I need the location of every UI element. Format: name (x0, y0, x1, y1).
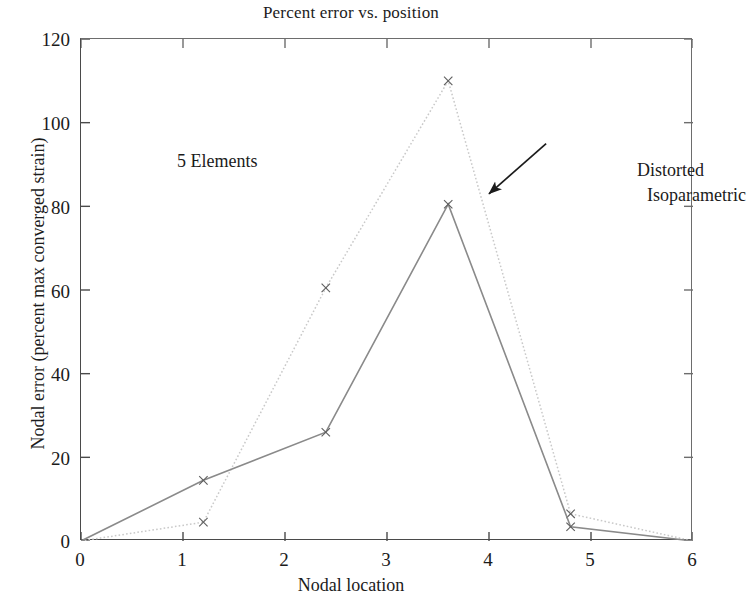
x-tick-label-3: 3 (366, 550, 406, 569)
axis-ticks (81, 39, 693, 541)
series-0 (81, 77, 693, 541)
callout-line-2: Isoparametric (637, 183, 746, 208)
x-tick-label-0: 0 (60, 550, 100, 569)
chart-title: Percent error vs. position (0, 3, 702, 23)
elements-note-text: 5 Elements (177, 151, 257, 171)
x-axis-title: Nodal location (0, 575, 702, 596)
series-1 (81, 200, 693, 541)
callout-arrow (489, 144, 546, 194)
elements-note-label: 5 Elements (177, 151, 257, 172)
plot-canvas (81, 39, 693, 541)
callout-line-1: Distorted (637, 160, 704, 180)
y-axis-title: Nodal error (percent max converged strai… (28, 44, 49, 544)
x-tick-label-4: 4 (468, 550, 508, 569)
series-callout-label: Distorted Isoparametric (637, 158, 746, 208)
x-tick-label-1: 1 (162, 550, 202, 569)
data-series-layer (81, 77, 693, 541)
x-tick-label-5: 5 (570, 550, 610, 569)
plot-area: 5 Elements Distorted Isoparametric (80, 38, 692, 540)
x-tick-label-6: 6 (672, 550, 712, 569)
x-tick-label-2: 2 (264, 550, 304, 569)
